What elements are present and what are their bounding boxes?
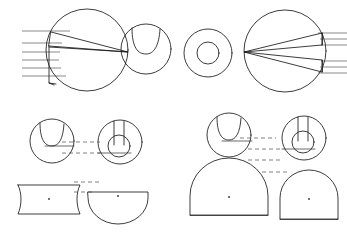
drawing-canvas xyxy=(0,0,347,235)
technical-drawing-svg xyxy=(0,0,347,235)
dome-section-center-mark xyxy=(308,198,310,200)
large-dome-center-mark xyxy=(228,196,230,198)
semicircle-center-mark xyxy=(117,195,119,197)
barrel-center-mark xyxy=(48,198,50,200)
